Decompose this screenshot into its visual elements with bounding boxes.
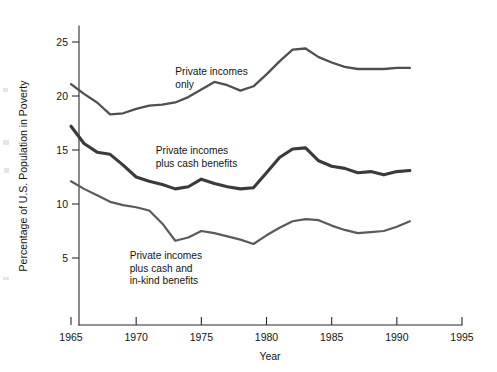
poverty-line-chart-figure: 510152025 1965197019751980198519901995 P…	[0, 0, 497, 372]
y-tick-label-10: 10	[56, 198, 68, 210]
y-tick-label-20: 20	[56, 90, 68, 102]
x-tick-label-1965: 1965	[59, 331, 83, 343]
series-line-1: Private incomes plus cash benefits	[71, 126, 410, 189]
annotation-plus-cash-line-1: plus cash benefits	[156, 158, 238, 169]
x-tick-label-1985: 1985	[320, 331, 344, 343]
x-tick-label-1990: 1990	[385, 331, 409, 343]
x-tick-label-1970: 1970	[124, 331, 148, 343]
annotation-plus-in-kind-line-1: plus cash and	[130, 263, 193, 274]
annotation-plus-in-kind-line-0: Private incomes	[130, 250, 202, 261]
y-tick-label-25: 25	[56, 36, 68, 48]
y-tick-label-5: 5	[62, 252, 68, 264]
annotation-private-only-line-0: Private incomes	[175, 66, 247, 77]
scan-artifacts	[3, 88, 9, 280]
y-axis-title: Percentage of U.S. Population in Poverty	[17, 80, 29, 272]
x-axis-ticks: 1965197019751980198519901995	[59, 317, 474, 343]
y-tick-label-15: 15	[56, 144, 68, 156]
annotation-private-only-line-1: only	[175, 79, 195, 90]
series-line-0: Private incomes only	[71, 48, 410, 114]
series-annotations-group: Private incomesonlyPrivate incomesplus c…	[130, 66, 248, 286]
x-tick-label-1980: 1980	[255, 331, 279, 343]
x-axis-title: Year	[259, 350, 281, 362]
annotation-plus-cash-line-0: Private incomes	[156, 145, 228, 156]
x-tick-label-1975: 1975	[190, 331, 214, 343]
x-tick-label-1995: 1995	[450, 331, 474, 343]
annotation-plus-in-kind-line-2: in-kind benefits	[130, 275, 199, 286]
data-series-group: Private incomes onlyPrivate incomes plus…	[71, 48, 410, 243]
series-line-2: Private incomes plus cash and in-kind be…	[71, 181, 410, 244]
y-axis-ticks: 510152025	[56, 36, 79, 264]
chart-canvas: 510152025 1965197019751980198519901995 P…	[0, 0, 497, 372]
